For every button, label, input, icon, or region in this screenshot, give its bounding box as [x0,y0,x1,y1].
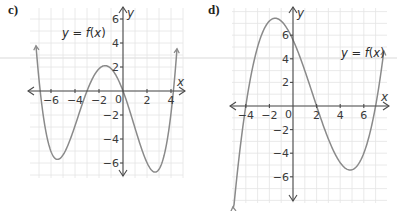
x-tick-label: −2 [91,94,107,107]
x-tick-label: 6 [360,109,367,122]
x-tick-label: 4 [337,109,344,122]
x-axis-label-d: x [380,90,389,104]
y-tick-label: 2 [112,61,119,74]
y-tick-label: −4 [103,133,119,146]
y-tick-label: −6 [273,171,289,184]
axes-d [230,7,389,201]
graph-panel-d: −4−2246642−2−4−6 d) y = f(x) x y 0 [208,2,389,211]
y-tick-label: −4 [273,147,289,160]
x-tick-label: −4 [238,109,254,122]
x-tick-label: −6 [43,94,59,107]
origin-label-c: 0 [115,93,122,106]
x-tick-label: 2 [313,109,320,122]
x-axis-label-c: x [176,75,185,89]
function-label-d: y = f(x) [340,46,385,60]
curve-end-arrow-icon [231,207,236,211]
y-tick-label: −6 [103,157,119,170]
y-tick-label: 4 [112,37,119,50]
y-axis-label-d: y [296,6,305,20]
grid-c [30,8,183,178]
y-tick-label: 6 [282,29,289,42]
origin-label-d: 0 [285,108,292,121]
graph-panel-c: −6−4−224642−2−4−6 c) y = f(x) x y 0 [8,2,185,178]
y-tick-label: 4 [282,53,289,66]
y-tick-label: −2 [273,124,289,137]
y-tick-label: −2 [103,109,119,122]
y-tick-label: 2 [282,76,289,89]
function-label-c: y = f(x) [61,26,106,40]
curve-arrows-c [34,46,180,53]
part-label-d: d) [208,2,220,17]
curve-arrows-d [231,51,386,211]
x-tick-label: −4 [67,94,83,107]
y-axis-label-c: y [126,6,135,20]
x-tick-label: 2 [144,94,151,107]
x-tick-label: 4 [168,94,175,107]
y-tick-label: 6 [112,13,119,26]
x-tick-label: −2 [261,109,277,122]
graphs-figure: −6−4−224642−2−4−6 c) y = f(x) x y 0 −4−2… [0,0,397,211]
part-label-c: c) [8,2,18,17]
